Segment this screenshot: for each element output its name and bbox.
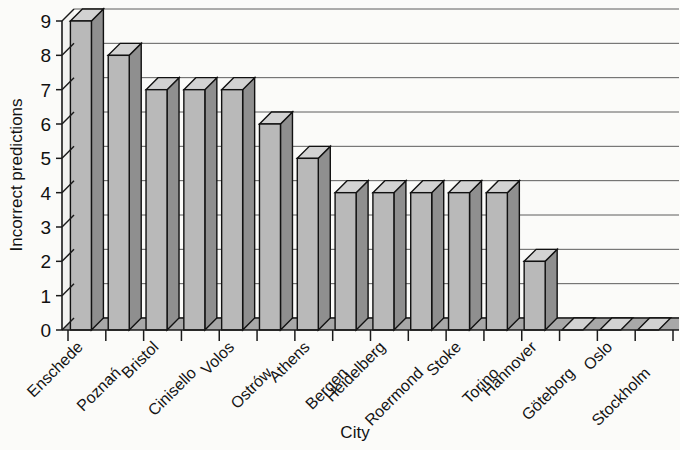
y-tick-labels-group: 0123456789 [40, 11, 51, 341]
x-tick-label: Oslo [580, 338, 615, 373]
x-tick-label: Roermond [361, 364, 426, 429]
bar [411, 181, 444, 330]
bar-front-face [222, 90, 243, 330]
bar [297, 146, 330, 330]
bar-side-face [318, 146, 330, 330]
x-axis-group [62, 330, 679, 341]
y-tick-label: 3 [40, 217, 51, 238]
bar-side-face [394, 181, 406, 330]
bar-front-face [411, 193, 432, 330]
x-tick-label: Stoke [423, 338, 464, 379]
y-tick-label: 0 [40, 320, 51, 341]
bar-side-face [167, 78, 179, 330]
bar-side-face [470, 181, 482, 330]
x-tick-label: Cinisello [145, 364, 200, 419]
bar-side-face [129, 43, 141, 330]
bar-chart: 0123456789 EnschedePoznańBristolCinisell… [0, 0, 680, 450]
bar-side-face [205, 78, 217, 330]
y-axis-title: Incorrect predictions [7, 98, 26, 251]
bar [486, 181, 519, 330]
bar-front-face [297, 158, 318, 330]
x-tick-label: Enschede [24, 338, 86, 400]
bar [524, 249, 557, 330]
bar [259, 112, 292, 330]
bar-front-face [373, 193, 394, 330]
bar [335, 181, 368, 330]
bar-side-face [280, 112, 292, 330]
x-tick-label: Stockholm [588, 364, 653, 429]
bar-side-face [432, 181, 444, 330]
y-tick-label: 6 [40, 114, 51, 135]
y-tick-label: 4 [40, 183, 51, 204]
y-tick-label: 1 [40, 286, 51, 307]
bar-side-face [545, 249, 557, 330]
x-tick-label: Göteborg [518, 364, 577, 423]
bar-side-face [356, 181, 368, 330]
bar-front-face [259, 124, 280, 330]
bar [146, 78, 179, 330]
y-tick-label: 8 [40, 45, 51, 66]
x-tick-label: Bristol [118, 338, 161, 381]
x-tick-label: Volos [198, 338, 238, 378]
y-tick-label: 2 [40, 251, 51, 272]
bar [108, 43, 141, 330]
bar [184, 78, 217, 330]
bar-front-face [486, 193, 507, 330]
y-tick-label: 7 [40, 80, 51, 101]
bar-side-face [243, 78, 255, 330]
bar [222, 78, 255, 330]
bar-front-face [449, 193, 470, 330]
bar-front-face [108, 55, 129, 330]
x-axis-title: City [340, 423, 370, 442]
bar [449, 181, 482, 330]
x-tick-label: Athens [266, 338, 313, 385]
bar-front-face [146, 90, 167, 330]
bar-front-face [184, 90, 205, 330]
bar [373, 181, 406, 330]
bar [70, 9, 103, 330]
chart-canvas: 0123456789 EnschedePoznańBristolCinisell… [0, 0, 680, 450]
bar-front-face [335, 193, 356, 330]
y-tick-label: 5 [40, 148, 51, 169]
bar-side-face [507, 181, 519, 330]
x-tick-label: Poznań [73, 364, 123, 414]
bars-group [70, 9, 670, 330]
x-tick-labels-group: EnschedePoznańBristolCiniselloVolosOstró… [24, 338, 654, 429]
y-tick-label: 9 [40, 11, 51, 32]
bar-side-face [91, 9, 103, 330]
bar-front-face [524, 261, 545, 330]
